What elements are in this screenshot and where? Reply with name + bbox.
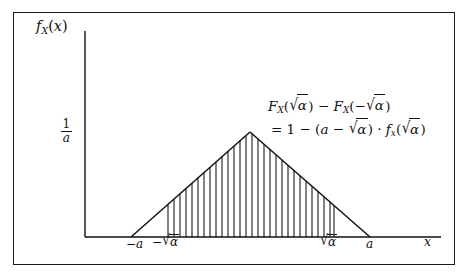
annotation-formula: FX(√α) − FX(−√α) = 1 − (a − √α) · fx(√α) (268, 95, 426, 142)
x-tick-label-a: a (366, 237, 373, 251)
density-left-edge (131, 132, 250, 237)
x-tick-label-negative-sqrt-alpha: −√α (152, 234, 179, 249)
y-axis-label: fX(x) (36, 18, 68, 36)
hatch-fill-region (168, 134, 334, 237)
density-right-edge (250, 132, 370, 237)
y-axis-tick-label-one-over-a: 1a (61, 118, 72, 144)
figure-root: fX(x) 1a x −a −√α √α a FX(√α) − FX(−√α) … (0, 0, 469, 279)
x-tick-label-negative-a: −a (126, 237, 143, 251)
x-axis-label: x (424, 234, 431, 249)
formula-line-2: = 1 − (a − √α) · fx(√α) (271, 118, 426, 141)
x-tick-label-sqrt-alpha: √α (320, 234, 337, 249)
